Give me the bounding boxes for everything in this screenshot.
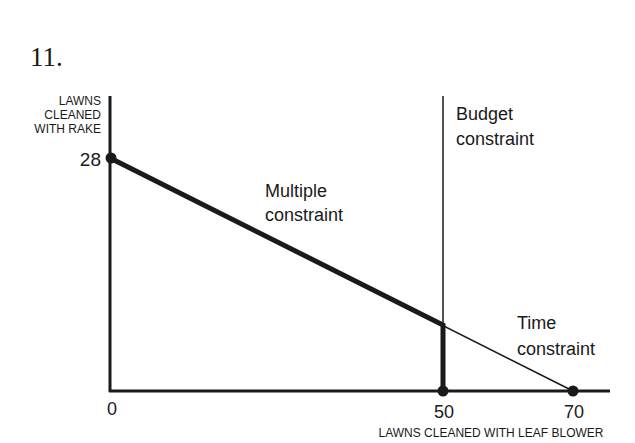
y-axis-label-line1: LAWNS — [59, 94, 101, 108]
point-blower-70 — [568, 386, 579, 397]
x-axis-label: LAWNS CLEANED WITH LEAF BLOWER — [379, 426, 604, 440]
constraint-chart: LAWNS CLEANED WITH RAKE 28 0 50 70 LAWNS… — [0, 0, 635, 443]
multiple-constraint-label-2: constraint — [265, 205, 343, 225]
point-blower-50 — [438, 386, 449, 397]
x-tick-70: 70 — [564, 402, 584, 422]
point-rake-28 — [106, 153, 117, 164]
x-tick-50: 50 — [434, 402, 454, 422]
multiple-constraint-label-1: Multiple — [265, 181, 327, 201]
budget-constraint-label-2: constraint — [456, 129, 534, 149]
y-tick-28: 28 — [80, 149, 101, 170]
budget-constraint-label-1: Budget — [456, 104, 513, 124]
time-constraint-label-1: Time — [517, 313, 556, 333]
x-tick-0: 0 — [107, 399, 117, 419]
y-axis-label-line3: WITH RAKE — [34, 122, 101, 136]
y-axis-label-line2: CLEANED — [44, 108, 101, 122]
time-constraint-label-2: constraint — [517, 339, 595, 359]
